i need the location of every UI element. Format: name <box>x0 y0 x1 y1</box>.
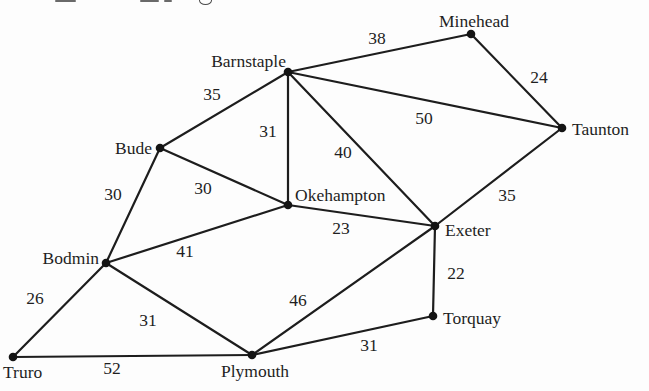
edge-weight-truro-plymouth: 52 <box>103 358 121 378</box>
graph-svg: 3824503531403530302341263152462231Minehe… <box>0 0 649 391</box>
edge-weight-bodmin-okehampton: 41 <box>176 241 194 261</box>
node-label-barnstaple: Barnstaple <box>211 51 286 71</box>
node-dot-truro <box>9 353 18 362</box>
node-label-exeter: Exeter <box>445 220 491 240</box>
node-label-torquay: Torquay <box>443 308 501 328</box>
node-dot-okehampton <box>284 201 293 210</box>
edge-weight-plymouth-torquay: 31 <box>360 335 378 355</box>
node-label-taunton: Taunton <box>572 119 629 139</box>
edge-exeter-torquay <box>433 226 435 316</box>
edge-weight-barnstaple-okehampton: 31 <box>259 121 277 141</box>
node-label-minehead: Minehead <box>439 11 509 31</box>
edge-bude-okehampton <box>160 148 288 205</box>
edge-weight-minehead-taunton: 24 <box>530 67 548 87</box>
edge-weight-exeter-torquay: 22 <box>447 263 465 283</box>
node-dot-taunton <box>558 124 567 133</box>
node-dot-exeter <box>431 222 440 231</box>
edge-taunton-exeter <box>435 128 562 226</box>
graph-diagram: 3824503531403530302341263152462231Minehe… <box>0 0 649 391</box>
edge-bodmin-plymouth <box>106 263 252 355</box>
node-label-okehampton: Okehampton <box>295 185 386 205</box>
node-dot-bodmin <box>102 259 111 268</box>
edge-weight-plymouth-exeter: 46 <box>289 290 307 310</box>
node-label-plymouth: Plymouth <box>221 361 289 381</box>
edge-truro-plymouth <box>13 355 252 357</box>
edge-weight-bude-okehampton: 30 <box>194 178 212 198</box>
edge-weight-truro-bodmin: 26 <box>26 288 44 308</box>
edge-weight-bodmin-plymouth: 31 <box>139 310 157 330</box>
edge-bodmin-okehampton <box>106 205 288 263</box>
node-dot-bude <box>156 144 165 153</box>
edge-weight-bude-barnstaple: 35 <box>203 84 221 104</box>
edge-weight-okehampton-exeter: 23 <box>332 218 350 238</box>
node-dot-plymouth <box>248 351 257 360</box>
edge-bude-bodmin <box>106 148 160 263</box>
edge-minehead-taunton <box>471 34 562 128</box>
edge-weight-barnstaple-exeter: 40 <box>334 142 352 162</box>
edge-truro-bodmin <box>13 263 106 357</box>
edge-weight-taunton-exeter: 35 <box>498 185 516 205</box>
edge-weight-barnstaple-taunton: 50 <box>415 108 433 128</box>
node-label-bude: Bude <box>115 138 152 158</box>
node-dot-torquay <box>429 312 438 321</box>
node-label-bodmin: Bodmin <box>43 248 100 268</box>
edge-okehampton-exeter <box>288 205 435 226</box>
node-label-truro: Truro <box>3 362 42 382</box>
edge-weight-barnstaple-minehead: 38 <box>368 28 386 48</box>
edge-weight-bude-bodmin: 30 <box>104 184 122 204</box>
